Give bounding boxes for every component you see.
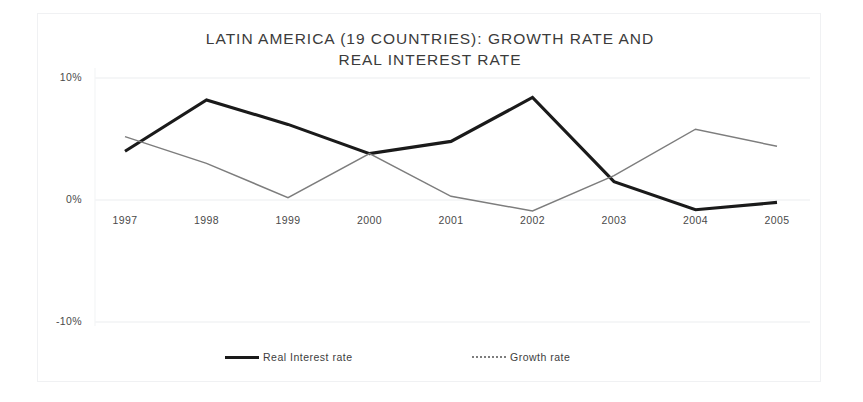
x-axis-tick-label: 1999 (262, 214, 314, 226)
x-axis-tick-label: 2001 (425, 214, 477, 226)
y-axis-tick-label: 10% (38, 71, 82, 83)
y-axis-tick-label: -10% (38, 315, 82, 327)
y-axis-tick-label: 0% (38, 193, 82, 205)
chart-figure: LATIN AMERICA (19 COUNTRIES): GROWTH RAT… (0, 0, 863, 402)
chart-legend: Real Interest rate Growth rate (225, 349, 645, 369)
legend-label: Real Interest rate (263, 351, 353, 363)
legend-item-growth-rate[interactable]: Growth rate (472, 349, 570, 365)
series-layer (125, 98, 777, 212)
x-axis-tick-label: 2004 (670, 214, 722, 226)
series-line (125, 98, 777, 210)
legend-swatch-icon (225, 356, 259, 359)
x-axis-tick-label: 1998 (181, 214, 233, 226)
legend-label: Growth rate (510, 351, 570, 363)
legend-swatch-icon (472, 356, 506, 358)
plot-area (0, 0, 863, 402)
x-axis-tick-label: 1997 (99, 214, 151, 226)
x-axis-tick-label: 2000 (344, 214, 396, 226)
legend-item-real-interest-rate[interactable]: Real Interest rate (225, 349, 353, 365)
x-axis-tick-label: 2002 (507, 214, 559, 226)
x-axis-tick-label: 2003 (588, 214, 640, 226)
x-axis-tick-label: 2005 (751, 214, 803, 226)
